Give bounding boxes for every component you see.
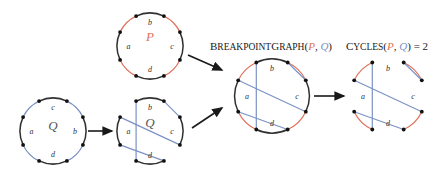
bg-node [236, 110, 240, 114]
genome-q-unfolded-center-label: Q [145, 115, 155, 130]
p-node [118, 58, 122, 62]
cyc-node [352, 78, 356, 82]
q-node [21, 143, 25, 147]
breakpoint-graph-figure: b c d a P c b d [0, 0, 436, 177]
bg-node [254, 128, 258, 132]
q-node [65, 99, 69, 103]
q-node [21, 115, 25, 119]
cyc-node [420, 110, 424, 114]
qu-node [118, 143, 122, 147]
qu-block-label-c: c [170, 127, 174, 136]
bg-node [254, 61, 258, 65]
bg-block-label-c: c [295, 92, 299, 101]
bg-node [286, 61, 290, 65]
cycles-label: CYCLES(P, Q) = 2 [346, 40, 428, 53]
cyc-label-C: C [346, 40, 353, 52]
cyc-block-label-a: a [361, 92, 365, 101]
p-node [162, 74, 166, 78]
q-node [81, 115, 85, 119]
qu-node [178, 143, 182, 147]
breakpoint-graph-diagram: b c d a [235, 59, 310, 133]
p-node [162, 14, 166, 18]
p-node [134, 74, 138, 78]
bg-node [304, 78, 308, 82]
q-node [37, 99, 41, 103]
genome-q-diagram: c b d a Q [20, 98, 86, 164]
bg-node [236, 78, 240, 82]
bg-label-q: Q [320, 40, 328, 52]
genome-p-center-label: P [145, 29, 154, 44]
bg-node [286, 128, 290, 132]
q-block-label-c: c [51, 103, 55, 112]
qu-block-label-b: b [148, 103, 152, 112]
qu-node [134, 159, 138, 163]
cyc-node [370, 61, 374, 65]
p-block-label-b: b [148, 18, 152, 27]
cyc-node [402, 128, 406, 132]
bg-node [304, 110, 308, 114]
p-node [178, 30, 182, 34]
qu-node [162, 99, 166, 103]
cyc-node [402, 61, 406, 65]
cyc-label-value: 2 [423, 40, 429, 52]
bg-block-label-b: b [270, 64, 274, 73]
qu-node [162, 159, 166, 163]
q-node [65, 159, 69, 163]
cyc-node [370, 128, 374, 132]
cyc-node [420, 78, 424, 82]
p-block-label-a: a [127, 42, 131, 51]
cyc-label-q: Q [399, 40, 407, 52]
cyc-label-equals: = [411, 40, 423, 52]
bg-label-reakpoint: REAKPOINT [217, 42, 271, 52]
q-block-label-a: a [30, 127, 34, 136]
bg-block-label-a: a [245, 92, 249, 101]
q-node [81, 143, 85, 147]
p-node [134, 14, 138, 18]
genome-q-center-label: Q [48, 118, 58, 133]
bg-label-close-paren: ) [328, 40, 332, 53]
cyc-label-ycles: YCLES [353, 42, 383, 52]
cyc-block-label-b: b [386, 64, 390, 73]
cyc-node [352, 110, 356, 114]
q-block-label-b: b [73, 127, 77, 136]
cyc-block-label-c: c [411, 92, 415, 101]
breakpoint-graph-label: BREAKPOINTGRAPH(P, Q) [210, 40, 332, 53]
bg-label-G: G [271, 40, 279, 52]
figure-canvas: b c d a P c b d [0, 0, 436, 177]
qu-block-label-a: a [127, 127, 131, 136]
p-node [178, 58, 182, 62]
p-node [118, 30, 122, 34]
q-node [37, 159, 41, 163]
qu-node [118, 115, 122, 119]
p-block-label-c: c [170, 42, 174, 51]
qu-node [134, 99, 138, 103]
bg-label-B: B [210, 40, 217, 52]
bg-label-raph: RAPH [279, 42, 304, 52]
qu-node [178, 115, 182, 119]
